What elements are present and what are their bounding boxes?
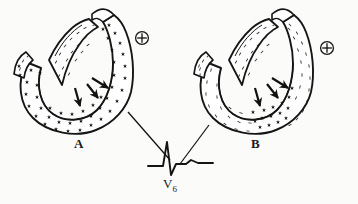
ecg-lead-label: V6 xyxy=(163,176,177,194)
panel-a-heart-cross-section xyxy=(14,9,170,160)
ecg-tracing xyxy=(148,142,213,175)
figure-svg xyxy=(0,0,358,204)
panel-a-label: A xyxy=(74,136,84,152)
panel-a-positive-electrode-icon xyxy=(136,32,149,45)
panel-a-leader-line xyxy=(128,112,170,160)
panel-a-septum xyxy=(49,19,98,85)
panel-b-leader-line xyxy=(180,125,209,164)
panel-b-septum xyxy=(229,19,278,85)
ecg-lead-subscript: 6 xyxy=(172,184,177,194)
figure-root: A B V6 xyxy=(0,0,358,204)
panel-b-label: B xyxy=(251,136,260,152)
ecg-lead-letter: V xyxy=(163,176,172,191)
panel-b-positive-electrode-icon xyxy=(321,42,334,55)
